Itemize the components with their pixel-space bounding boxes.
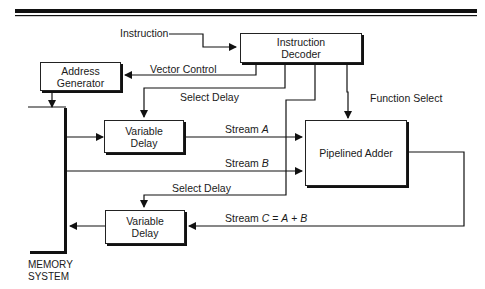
function-select-label: Function Select [370,92,442,104]
stream-a-label: Stream A [225,123,269,135]
variable-delay-top-block: Variable Delay [104,120,184,153]
top-rule-thick [15,9,477,13]
memory-system-line1: MEMORY [28,259,73,270]
memory-system-line2: SYSTEM [28,271,69,282]
variable-delay-bottom-block: Variable Delay [105,210,185,244]
top-rule-thin [15,15,477,16]
stream-c-eq: = [272,212,278,224]
address-generator-block: Address Generator [40,62,121,91]
variable-delay-top-line2: Delay [131,137,158,149]
variable-delay-bottom-line1: Variable [126,215,164,227]
memory-system-outline [28,107,67,254]
stream-c-plus: + [291,212,297,224]
select-delay-bottom-label: Select Delay [172,182,231,194]
stream-c-prefix: Stream [225,212,259,224]
vector-control-label: Vector Control [150,63,217,75]
pipelined-adder-block: Pipelined Adder [305,120,407,186]
stream-c-a: A [281,212,288,224]
memory-system-label: MEMORY SYSTEM [28,259,73,283]
stream-c-label: Stream C = A + B [225,212,307,224]
select-delay-top-label: Select Delay [180,91,239,103]
stream-b-label: Stream B [225,157,269,169]
variable-delay-top-line1: Variable [125,125,163,137]
stream-b-var: B [262,157,269,169]
stream-a-prefix: Stream [225,123,259,135]
stream-b-prefix: Stream [225,157,259,169]
stream-a-var: A [262,123,269,135]
instruction-decoder-line2: Decoder [281,48,321,60]
pipelined-adder-label: Pipelined Adder [319,147,393,159]
variable-delay-bottom-line2: Delay [132,227,159,239]
address-generator-line2: Generator [57,77,104,89]
instruction-signal-label: Instruction [120,27,168,39]
address-generator-line1: Address [61,65,100,77]
instruction-decoder-block: Instruction Decoder [240,33,362,63]
instruction-decoder-line1: Instruction [277,36,325,48]
stream-c-var: C [262,212,270,224]
stream-c-b: B [300,212,307,224]
